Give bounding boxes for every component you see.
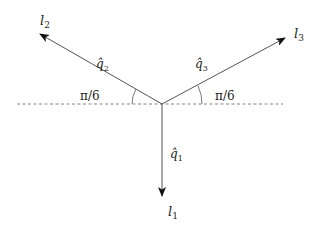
angle-arc-left <box>132 89 136 104</box>
label-l2: l2 <box>40 13 50 30</box>
label-q3-hat: q̂3 <box>195 57 208 73</box>
label-q2-hat: q̂2 <box>96 57 109 73</box>
label-l3: l3 <box>294 26 304 43</box>
angle-label-right: π/6 <box>215 89 235 103</box>
label-q1-hat: q̂1 <box>170 147 183 163</box>
angle-arc-right <box>198 86 202 104</box>
vector-diagram: l2 q̂2 π/6 l3 q̂3 π/6 q̂1 l1 <box>0 0 313 230</box>
angle-label-left: π/6 <box>80 89 100 103</box>
label-l1: l1 <box>168 204 178 221</box>
